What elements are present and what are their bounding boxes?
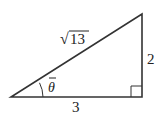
hypotenuse-value: 13 (70, 31, 85, 47)
right-triangle-diagram: √ 13 2 3 θ (0, 0, 165, 118)
hypotenuse-label: √ 13 (60, 30, 89, 47)
theta-symbol: θ (48, 80, 55, 95)
radical-sign: √ (60, 30, 69, 47)
angle-label: θ (48, 78, 56, 95)
opposite-side-label: 2 (147, 51, 155, 67)
right-angle-marker (131, 86, 142, 97)
adjacent-side-label: 3 (72, 99, 80, 115)
triangle-shape (11, 14, 142, 97)
angle-arc (40, 83, 44, 97)
